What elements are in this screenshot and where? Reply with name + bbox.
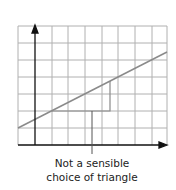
annotation-line-1: Not a sensible [40, 157, 144, 170]
x-axis-arrow-icon [159, 142, 167, 148]
annotation-line-2: choice of triangle [40, 171, 144, 184]
